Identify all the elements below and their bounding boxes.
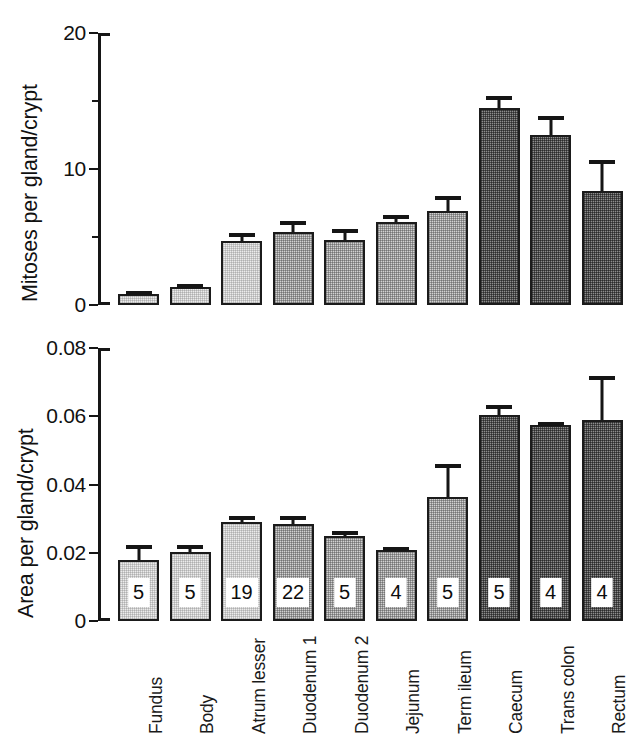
category-label-jejunum: Jejunum [403, 669, 424, 734]
category-label-body: Body [197, 695, 218, 734]
category-label-caecum: Caecum [506, 670, 527, 734]
category-axis-labels: FundusBodyAtrum lesserDuodenum 1Duodenum… [0, 0, 641, 741]
category-label-fundus: Fundus [146, 677, 167, 734]
category-label-atrum-lesser: Atrum lesser [249, 638, 270, 734]
figure-root: Mitoses per gland/crypt 01020 Area per g… [0, 0, 641, 741]
category-label-trans-colon: Trans colon [558, 645, 579, 734]
category-label-duodenum-1: Duodenum 1 [300, 636, 321, 734]
category-label-term-ileum: Term ileum [455, 650, 476, 734]
category-label-rectum: Rectum [609, 675, 630, 734]
category-label-duodenum-2: Duodenum 2 [352, 636, 373, 734]
